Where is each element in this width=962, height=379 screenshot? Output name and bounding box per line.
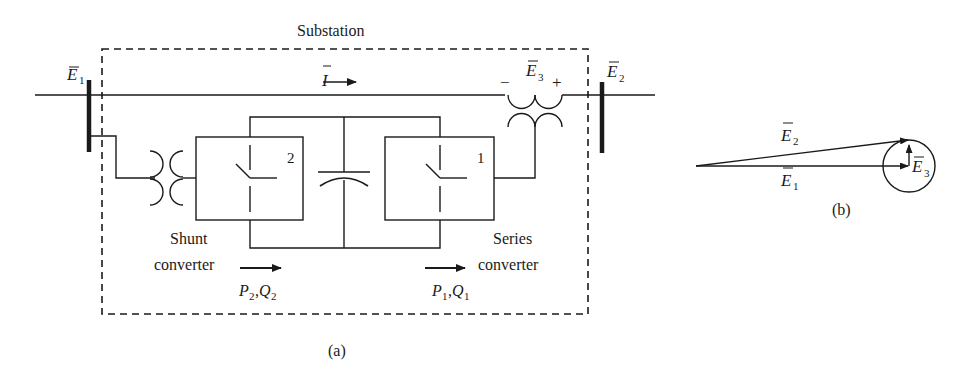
- svg-text:E: E: [780, 126, 792, 145]
- svg-text:I: I: [321, 71, 329, 90]
- label-e2: E 2: [606, 62, 625, 84]
- shunt-power-label: P 2 , Q 2: [238, 282, 277, 302]
- svg-text:+: +: [552, 73, 562, 92]
- svg-text:2: 2: [793, 135, 799, 147]
- label-phasor-e2: E 2: [780, 123, 799, 147]
- svg-text:E: E: [525, 61, 537, 80]
- label-e1: E 1: [66, 65, 85, 86]
- svg-text:1: 1: [464, 290, 470, 302]
- series-power-label: P 1 , Q 1: [431, 282, 470, 302]
- svg-text:E: E: [66, 65, 78, 84]
- shunt-label-line2: converter: [154, 256, 215, 273]
- svg-text:E: E: [780, 171, 792, 190]
- caption-a: (a): [328, 342, 346, 360]
- label-current: I: [321, 66, 331, 90]
- series-label-line1: Series: [493, 230, 532, 247]
- svg-text:P: P: [238, 282, 249, 299]
- label-phasor-e3: E 3: [911, 157, 930, 179]
- svg-text:E: E: [606, 62, 618, 81]
- svg-text:2: 2: [271, 290, 277, 302]
- svg-text:2: 2: [249, 290, 255, 302]
- caption-b: (b): [832, 201, 851, 219]
- svg-text:−: −: [500, 73, 510, 92]
- svg-text:1: 1: [793, 180, 799, 192]
- upfc-diagram: Substation E 1 I − E 3 + E 2 2 1 Shunt c…: [0, 0, 962, 379]
- svg-text:Q: Q: [259, 282, 271, 299]
- svg-text:2: 2: [619, 72, 625, 84]
- switch-icon: [236, 145, 277, 212]
- svg-text:1: 1: [442, 290, 448, 302]
- substation-title: Substation: [297, 22, 365, 39]
- phasor-e2-arrow: [696, 140, 908, 166]
- svg-text:3: 3: [924, 167, 930, 179]
- svg-text:E: E: [911, 157, 923, 176]
- phasor-diagram: [696, 140, 935, 192]
- label-phasor-e1: E 1: [780, 168, 799, 192]
- svg-text:Q: Q: [452, 282, 464, 299]
- series-transformer: [508, 95, 562, 127]
- svg-text:1: 1: [79, 74, 85, 86]
- label-e3: − E 3 +: [500, 61, 562, 92]
- switch-icon: [426, 145, 467, 212]
- svg-text:3: 3: [538, 71, 544, 83]
- svg-text:P: P: [431, 282, 442, 299]
- shunt-label-line1: Shunt: [170, 230, 208, 247]
- converter-1-number: 1: [477, 150, 485, 166]
- series-label-line2: converter: [478, 256, 539, 273]
- converter-2-number: 2: [287, 150, 295, 166]
